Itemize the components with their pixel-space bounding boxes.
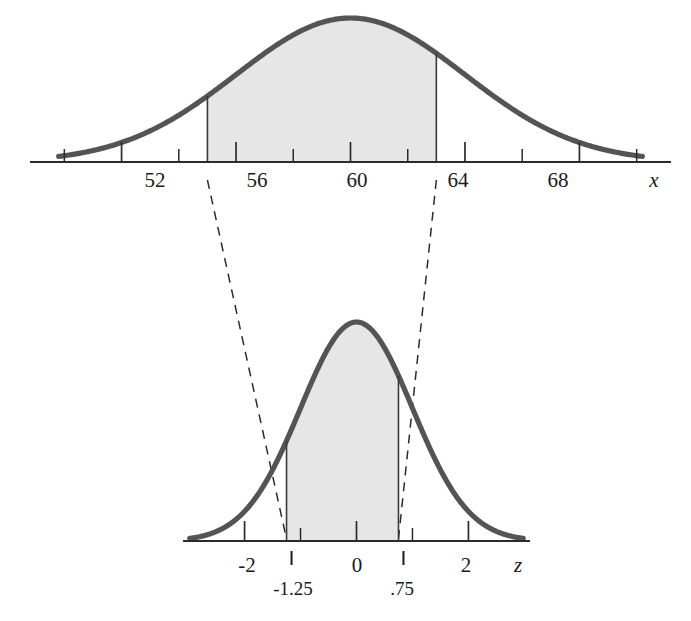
- connector-dashed-left: [207, 180, 286, 539]
- top-tick-label-52: 52: [145, 168, 166, 192]
- top-tick-label-68: 68: [548, 168, 569, 192]
- bottom-tick-label-2: 2: [461, 553, 472, 577]
- connector-dashed-right: [398, 180, 436, 539]
- bottom-axis-ticks: [245, 521, 469, 541]
- bottom-bound-label-upper: .75: [390, 578, 414, 599]
- top-tick-label-64: 64: [448, 168, 470, 192]
- normal-distribution-figure: 52 56 60 64 68 x: [0, 0, 691, 621]
- top-axis-ticks: [64, 142, 636, 162]
- top-panel: 52 56 60 64 68 x: [30, 8, 671, 192]
- bottom-tick-label-0: 0: [352, 553, 363, 577]
- bottom-axis-variable-label: z: [513, 553, 522, 577]
- top-axis-variable-label: x: [648, 168, 659, 192]
- bottom-bound-label-lower: -1.25: [273, 578, 313, 599]
- figure-canvas: 52 56 60 64 68 x: [0, 0, 691, 621]
- top-tick-label-56: 56: [247, 168, 268, 192]
- bottom-tick-label-neg2: -2: [238, 553, 256, 577]
- bottom-panel: -2 0 2 -1.25 .75 z: [183, 312, 530, 599]
- top-tick-label-60: 60: [347, 168, 368, 192]
